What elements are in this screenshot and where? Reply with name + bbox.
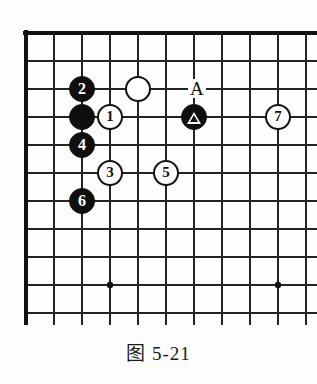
stone-black-2[interactable]: 2 (69, 76, 95, 102)
stone-move-number: 6 (78, 193, 86, 209)
star-point (107, 282, 113, 288)
stone-white-5[interactable]: 5 (153, 160, 179, 186)
stone-move-number: 4 (78, 137, 86, 153)
stone-black-plain[interactable] (69, 104, 95, 130)
go-board: 1234567 A (0, 0, 317, 325)
stone-black-triangle[interactable] (181, 104, 207, 130)
stone-white-1[interactable]: 1 (97, 104, 123, 130)
triangle-marker-icon (187, 112, 201, 124)
point-label-a: A (188, 79, 206, 98)
stone-white-3[interactable]: 3 (97, 160, 123, 186)
figure-caption: 图 5-21 (0, 338, 317, 365)
stone-move-number: 3 (106, 165, 114, 180)
stone-white-plain[interactable] (125, 76, 151, 102)
stone-black-6[interactable]: 6 (69, 188, 95, 214)
stone-move-number: 1 (106, 109, 114, 124)
stone-move-number: 7 (274, 109, 282, 124)
stone-white-7[interactable]: 7 (265, 104, 291, 130)
stone-move-number: 5 (162, 165, 170, 180)
stone-black-4[interactable]: 4 (69, 132, 95, 158)
figure-container: 1234567 A 图 5-21 (0, 0, 317, 384)
stone-move-number: 2 (78, 81, 86, 97)
star-point (275, 282, 281, 288)
